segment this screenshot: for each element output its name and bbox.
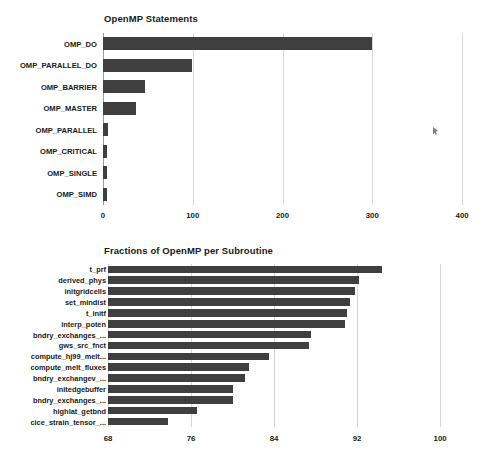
bar	[103, 166, 107, 179]
category-label: t_prf	[90, 265, 106, 274]
bar-row: derived_phys	[108, 276, 466, 284]
category-label: set_mindist	[65, 298, 106, 307]
bar-row: OMP_SINGLE	[103, 166, 480, 179]
bar	[108, 276, 359, 284]
bar	[108, 353, 269, 361]
x-tick-label: 400	[456, 211, 469, 220]
bar-row: t_initf	[108, 309, 466, 317]
plot-area-openmp-statements: 0100200300400OMP_DOOMP_PARALLEL_DOOMP_BA…	[103, 33, 480, 205]
x-tick-label: 100	[186, 211, 199, 220]
bar	[108, 342, 309, 350]
category-label: OMP_BARRIER	[41, 82, 97, 91]
bar-row: set_mindist	[108, 298, 466, 306]
category-label: OMP_SINGLE	[47, 168, 97, 177]
category-label: bndry_exchanges_...	[33, 395, 106, 404]
bar-row: OMP_MASTER	[103, 102, 480, 115]
category-label: gws_src_fnct	[59, 341, 106, 350]
bar-row: OMP_BARRIER	[103, 80, 480, 93]
bar	[108, 331, 311, 339]
bar	[103, 80, 145, 93]
category-label: initedgebuffer	[57, 384, 106, 393]
x-tick-label: 92	[353, 434, 362, 443]
chart-fractions-openmp: Fractions of OpenMP per Subroutine 68768…	[0, 236, 495, 466]
bar-row: interp_poten	[108, 320, 466, 328]
bar-row: OMP_SIMD	[103, 188, 480, 201]
x-tick-label: 84	[270, 434, 279, 443]
bar-row: compute_hj99_melt...	[108, 353, 466, 361]
bar-row: initgridcells	[108, 287, 466, 295]
x-tick-label: 100	[434, 434, 447, 443]
bar	[108, 320, 345, 328]
chart-title-openmp-statements: OpenMP Statements	[104, 13, 198, 24]
category-label: OMP_MASTER	[43, 104, 97, 113]
plot-area-fractions-openmp: 68768492100t_prfderived_physinitgridcell…	[108, 264, 466, 427]
bar-row: highlat_getbnd	[108, 407, 466, 415]
category-label: bndry_exchanges_...	[33, 330, 106, 339]
category-label: derived_phys	[58, 276, 106, 285]
bar	[108, 418, 168, 426]
category-label: cice_strain_tensor_...	[30, 417, 106, 426]
bar	[103, 102, 136, 115]
bar-row: bndry_exchanges_...	[108, 331, 466, 339]
bar-row: bndry_exchanges_...	[108, 396, 466, 404]
category-label: compute_melt_fluxes	[30, 363, 106, 372]
bar	[103, 188, 107, 201]
bar	[108, 396, 233, 404]
category-label: OMP_PARALLEL	[36, 125, 97, 134]
x-tick-label: 200	[276, 211, 289, 220]
x-tick-label: 68	[104, 434, 113, 443]
chart-openmp-statements: OpenMP Statements 0100200300400OMP_DOOMP…	[0, 0, 495, 236]
bar-row: cice_strain_tensor_...	[108, 418, 466, 426]
bar-row: bndry_exchangev_...	[108, 374, 466, 382]
bar-row: initedgebuffer	[108, 385, 466, 393]
bar	[103, 145, 107, 158]
bar	[103, 123, 108, 136]
bar-row: gws_src_fnct	[108, 342, 466, 350]
bar	[108, 298, 350, 306]
category-label: interp_poten	[61, 319, 106, 328]
bar-row: OMP_PARALLEL	[103, 123, 480, 136]
bar-row: t_prf	[108, 266, 466, 274]
bar	[108, 363, 249, 371]
bar-row: compute_melt_fluxes	[108, 363, 466, 371]
category-label: bndry_exchangev_...	[33, 374, 106, 383]
x-tick-label: 0	[101, 211, 105, 220]
x-tick-label: 300	[366, 211, 379, 220]
category-label: highlat_getbnd	[53, 406, 106, 415]
bar	[108, 266, 382, 274]
bar	[108, 287, 355, 295]
category-label: t_initf	[86, 308, 106, 317]
bar-row: OMP_PARALLEL_DO	[103, 59, 480, 72]
bar	[103, 59, 192, 72]
bar-row: OMP_DO	[103, 37, 480, 50]
bar	[108, 407, 197, 415]
x-tick-label: 76	[187, 434, 196, 443]
category-label: OMP_SIMD	[56, 190, 97, 199]
bar-row: OMP_CRITICAL	[103, 145, 480, 158]
chart-title-fractions-openmp: Fractions of OpenMP per Subroutine	[104, 245, 273, 256]
category-label: OMP_PARALLEL_DO	[20, 61, 97, 70]
category-label: OMP_DO	[64, 39, 97, 48]
category-label: OMP_CRITICAL	[40, 147, 97, 156]
bar	[103, 37, 372, 50]
category-label: compute_hj99_melt...	[31, 352, 106, 361]
bar	[108, 385, 233, 393]
category-label: initgridcells	[65, 287, 106, 296]
bar	[108, 374, 245, 382]
bar	[108, 309, 347, 317]
